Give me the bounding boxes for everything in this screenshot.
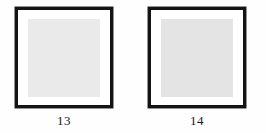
figure-panel-13: 13 bbox=[15, 7, 113, 128]
figure-plate: 13 14 bbox=[0, 0, 266, 133]
figure-panel-14: 14 bbox=[148, 7, 246, 128]
figure-caption: 14 bbox=[190, 113, 204, 128]
figure-frame bbox=[15, 7, 113, 108]
specimen-image bbox=[28, 19, 100, 97]
specimen-image bbox=[161, 19, 233, 97]
figure-frame bbox=[148, 7, 246, 108]
figure-caption: 13 bbox=[57, 113, 71, 128]
